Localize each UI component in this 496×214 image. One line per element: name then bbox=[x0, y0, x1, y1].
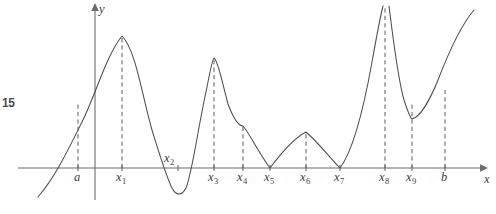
tick-label-x9: x9 bbox=[405, 170, 416, 186]
tick-label-base: a bbox=[74, 170, 80, 184]
function-graph-svg: ax1x2x3x4x5x6x7x8x9b x y bbox=[0, 0, 496, 214]
tick-label-subscript: 8 bbox=[385, 176, 389, 186]
tick-label-base: x bbox=[405, 170, 412, 184]
tick-label-base: x bbox=[163, 151, 170, 165]
tick-label-base: x bbox=[333, 170, 340, 184]
y-axis-arrowhead bbox=[91, 3, 99, 11]
tick-label-base: x bbox=[299, 170, 306, 184]
tick-label-x2: x2 bbox=[163, 151, 174, 167]
tick-label-x3: x3 bbox=[207, 170, 218, 186]
tick-label-base: x bbox=[263, 170, 270, 184]
tick-label-b: b bbox=[441, 170, 447, 184]
tick-label-subscript: 1 bbox=[122, 176, 126, 186]
tick-label-base: b bbox=[441, 170, 447, 184]
x-axis-arrowhead bbox=[480, 164, 488, 172]
tick-label-base: x bbox=[378, 170, 385, 184]
figure-container: 15 ax1x2x3x4x5x6x7x8x9b x y bbox=[0, 0, 496, 214]
tick-label-subscript: 4 bbox=[243, 176, 248, 186]
curve-segment-2 bbox=[389, 6, 474, 119]
tick-label-subscript: 5 bbox=[270, 176, 274, 186]
y-axis-group bbox=[91, 3, 99, 200]
dropline-group bbox=[78, 6, 445, 171]
tick-label-subscript: 2 bbox=[170, 157, 174, 167]
tick-label-subscript: 9 bbox=[412, 176, 416, 186]
x-axis-label: x bbox=[483, 172, 490, 186]
tick-label-subscript: 6 bbox=[306, 176, 310, 186]
tick-label-x4: x4 bbox=[236, 170, 248, 186]
tick-label-base: x bbox=[236, 170, 243, 184]
tick-label-x7: x7 bbox=[333, 170, 344, 186]
y-axis-label: y bbox=[97, 2, 105, 16]
tick-label-base: x bbox=[207, 170, 214, 184]
tick-label-x6: x6 bbox=[299, 170, 310, 186]
figure-number-label: 15 bbox=[2, 96, 15, 110]
tick-label-x1: x1 bbox=[115, 170, 126, 186]
tick-label-a: a bbox=[74, 170, 80, 184]
tick-label-x8: x8 bbox=[378, 170, 389, 186]
tick-label-base: x bbox=[115, 170, 122, 184]
tick-label-x5: x5 bbox=[263, 170, 274, 186]
tick-label-subscript: 3 bbox=[214, 176, 218, 186]
tick-label-subscript: 7 bbox=[340, 176, 344, 186]
x-axis-group bbox=[18, 164, 488, 172]
